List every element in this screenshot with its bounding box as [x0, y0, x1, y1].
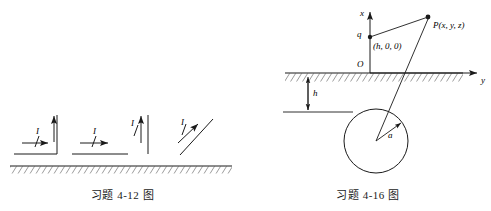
charge-point-label: q: [357, 29, 362, 39]
horizontal-conductor: [72, 136, 128, 154]
depth-dimension-h: [283, 77, 353, 112]
vertical-conductor: [134, 115, 148, 154]
field-point-label: P(x, y, z): [433, 20, 465, 30]
caption-problem-4-16: 习题 4-16 图: [245, 186, 491, 202]
y-axis-label: y: [481, 75, 485, 85]
radius-label-a: a: [388, 130, 393, 140]
field-point-marker: [426, 15, 431, 20]
ground-hatching-right: [285, 74, 463, 82]
current-label-1: I: [36, 126, 39, 136]
caption-problem-4-12: 习题 4-12 图: [0, 186, 245, 202]
figure-left-drawing: [0, 0, 245, 186]
current-label-tick-2: [92, 136, 96, 147]
current-label-tick-3: [134, 125, 138, 136]
current-label-2: I: [93, 126, 96, 136]
hatched-ground-plane-left: [10, 166, 232, 174]
current-label-3: I: [131, 118, 134, 128]
charge-coordinates-label: (h, 0, 0): [373, 41, 402, 51]
problem-4-12-figure: I I I I 习题 4-12 图: [0, 0, 245, 211]
segment-q-to-P: [370, 17, 428, 37]
current-label-4: I: [181, 117, 184, 127]
x-axis-label: x: [360, 8, 364, 18]
depth-label-h: h: [313, 88, 318, 98]
current-label-tick-1: [35, 136, 39, 147]
problem-4-16-figure: x y O q (h, 0, 0) P(x, y, z) h a 习题 4-16…: [245, 0, 491, 211]
origin-label: O: [357, 59, 364, 69]
ground-hatching-left: [10, 167, 232, 174]
hatched-ground-plane-right: [285, 73, 463, 82]
charge-point-marker: [368, 35, 372, 39]
figure-page: I I I I 习题 4-12 图: [0, 0, 491, 211]
